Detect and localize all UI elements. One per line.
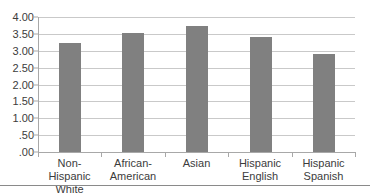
x-tick-label-hispanic-english: Hispanic English [228, 157, 292, 183]
bar-chart-figure: 4.00 3.50 3.00 2.50 2.00 1.50 1.00 .50 .… [0, 0, 370, 193]
bar-african-american [122, 33, 144, 152]
y-tick-label: 3.50 [13, 28, 34, 39]
bars-layer [38, 17, 355, 152]
x-tick-label-non-hispanic-white: Non-Hispanic White [38, 157, 101, 193]
y-tick-label: .50 [19, 130, 34, 141]
x-tick-label-hispanic-spanish: Hispanic Spanish [292, 157, 355, 183]
y-tick-label: 1.50 [13, 96, 34, 107]
bar-asian [186, 26, 208, 152]
bar-hispanic-spanish [313, 54, 335, 152]
y-tick-label: .00 [19, 147, 34, 158]
y-tick-label: 1.00 [13, 113, 34, 124]
bar-hispanic-english [250, 37, 272, 152]
y-tick-label: 4.00 [13, 12, 34, 23]
x-tick-label-asian: Asian [165, 157, 228, 170]
y-tick-label: 2.00 [13, 79, 34, 90]
x-axis-line [38, 152, 356, 153]
x-tick-mark [355, 152, 356, 157]
bottom-divider [0, 185, 370, 186]
bar-non-hispanic-white [59, 43, 81, 152]
y-tick-label: 3.00 [13, 45, 34, 56]
y-tick-label: 2.50 [13, 62, 34, 73]
y-axis-label-group: 4.00 3.50 3.00 2.50 2.00 1.50 1.00 .50 .… [0, 17, 34, 152]
x-tick-label-african-american: African- American [101, 157, 165, 183]
